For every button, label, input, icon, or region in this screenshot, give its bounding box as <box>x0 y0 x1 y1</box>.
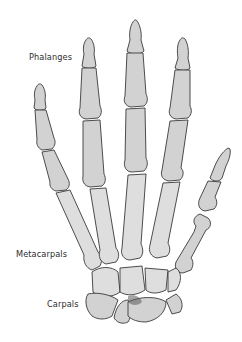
label-carpals: Carpals <box>47 299 79 309</box>
hand-skeleton-diagram: Phalanges Metacarpals Carpals <box>0 0 242 342</box>
label-metacarpals: Metacarpals <box>16 249 67 259</box>
index-finger-bones <box>149 38 191 258</box>
thumb-bones <box>175 148 230 273</box>
label-phalanges: Phalanges <box>29 52 72 62</box>
middle-finger-bones <box>121 20 147 260</box>
carpal-bones <box>86 266 182 323</box>
